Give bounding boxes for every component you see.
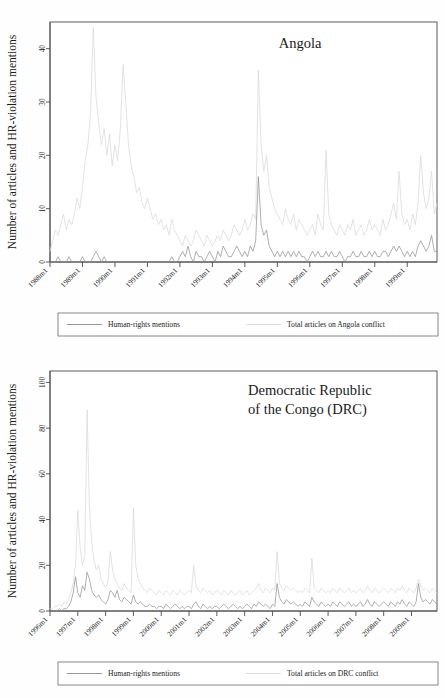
x-tick-label: 2003m1	[221, 615, 245, 639]
x-tick-label: 2006m1	[304, 615, 328, 639]
y-tick-label: 20	[38, 151, 47, 159]
legend: Human-rights mentionsTotal articles on A…	[58, 313, 438, 336]
x-tick-label: 1997m1	[318, 266, 342, 290]
angola-chart-svg: 010203040Number of articles and HR-viola…	[0, 0, 445, 349]
y-axis: 010203040	[38, 45, 50, 264]
chart-panel-angola: 010203040Number of articles and HR-viola…	[0, 0, 445, 349]
x-tick-label: 2002m1	[193, 615, 217, 639]
x-tick-label: 1992m1	[156, 266, 180, 290]
x-tick-label: 2007m1	[332, 615, 356, 639]
x-tick-label: 1999m1	[383, 266, 407, 290]
x-tick-label: 1991m1	[124, 266, 148, 290]
panel-title: Angola	[279, 35, 322, 51]
chart-panel-drc: 020406080100Number of articles and HR-vi…	[0, 349, 445, 698]
x-axis: 1988m11989m11990m11991m11992m11993m11994…	[26, 262, 407, 289]
y-tick-label: 30	[38, 98, 47, 106]
y-tick-label: 0	[38, 260, 47, 264]
legend: Human-rights mentionsTotal articles on D…	[58, 662, 438, 685]
panel-title-line: Democratic Republic	[248, 382, 372, 398]
x-tick-label: 2005m1	[276, 615, 300, 639]
x-tick-label: 2008m1	[360, 615, 384, 639]
x-tick-label: 1990m1	[91, 266, 115, 290]
x-tick-label: 1995m1	[253, 266, 277, 290]
legend-label-total-articles: Total articles on DRC conflict	[287, 669, 379, 678]
x-tick-label: 1996m1	[286, 266, 310, 290]
x-tick-label: 1998m1	[351, 266, 375, 290]
x-axis: 1996m11997m11998m11999m12000m12001m12002…	[26, 611, 411, 638]
drc-chart-svg: 020406080100Number of articles and HR-vi…	[0, 349, 445, 698]
x-tick-label: 2001m1	[165, 615, 189, 639]
y-tick-label: 20	[38, 561, 47, 569]
x-tick-label: 1997m1	[54, 615, 78, 639]
x-tick-label: 1989m1	[59, 266, 83, 290]
x-tick-label: 1994m1	[221, 266, 245, 290]
y-axis: 020406080100	[38, 377, 50, 613]
y-tick-label: 40	[38, 516, 47, 524]
y-axis-title: Number of articles and HR-violation ment…	[6, 34, 18, 249]
figure-container: 010203040Number of articles and HR-viola…	[0, 0, 445, 698]
y-tick-label: 0	[38, 609, 47, 613]
y-tick-label: 40	[38, 45, 47, 53]
y-tick-label: 10	[38, 205, 47, 213]
legend-label-human-rights: Human-rights mentions	[108, 669, 180, 678]
panel-title-line: of the Congo (DRC)	[248, 401, 367, 418]
legend-label-total-articles: Total articles on Angola conflict	[287, 320, 386, 329]
panel-title-line: Angola	[279, 35, 322, 51]
y-tick-label: 100	[38, 377, 47, 388]
x-tick-label: 2009m1	[388, 615, 412, 639]
legend-label-human-rights: Human-rights mentions	[108, 320, 180, 329]
x-tick-label: 1998m1	[82, 615, 106, 639]
x-tick-label: 1988m1	[26, 266, 50, 290]
x-tick-label: 1996m1	[26, 615, 50, 639]
x-tick-label: 1999m1	[110, 615, 134, 639]
y-tick-label: 80	[38, 424, 47, 432]
x-tick-label: 1993m1	[189, 266, 213, 290]
y-tick-label: 60	[38, 470, 47, 478]
x-tick-label: 2000m1	[137, 615, 161, 639]
y-axis-title: Number of articles and HR-violation ment…	[6, 383, 18, 598]
x-tick-label: 2004m1	[249, 615, 273, 639]
